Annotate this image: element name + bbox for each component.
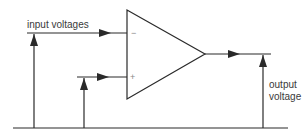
inverting-input-arrow-icon — [99, 29, 111, 37]
output-label-line2: voltage — [269, 91, 302, 102]
output-label-line1: output — [269, 79, 297, 90]
op-amp-triangle — [127, 10, 205, 99]
non-inverting-terminal-sign: + — [130, 72, 135, 82]
op-amp-diagram: − + input voltages output voltage — [0, 0, 307, 139]
output-arrow-icon — [228, 50, 240, 58]
inverting-terminal-sign: − — [131, 28, 136, 38]
input-voltages-label: input voltages — [27, 19, 89, 30]
output-voltage-arrowhead-icon — [259, 55, 267, 67]
input-voltage-2-arrowhead-icon — [80, 78, 88, 90]
input-voltage-1-arrowhead-icon — [30, 34, 38, 46]
non-inverting-input-arrow-icon — [97, 73, 109, 81]
